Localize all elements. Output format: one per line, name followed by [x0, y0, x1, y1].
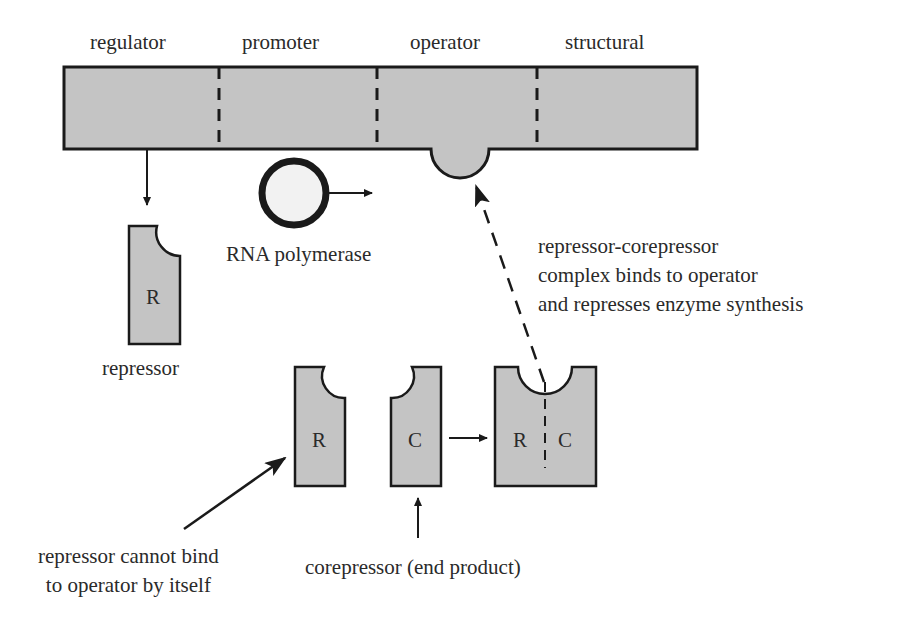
corepressor-shape: [391, 367, 441, 486]
complex-letter-r: R: [505, 428, 535, 453]
segment-label-regulator: regulator: [90, 30, 166, 54]
inactive-repressor-shape: [295, 367, 345, 486]
segment-label-structural: structural: [565, 30, 644, 54]
corepressor-annotation: corepressor (end product): [305, 555, 521, 579]
segment-label-promoter: promoter: [242, 30, 319, 54]
dna-strand: [64, 67, 697, 178]
rna-polymerase-icon: [262, 161, 326, 225]
segment-label-operator: operator: [410, 30, 480, 54]
complex-letter-c: C: [550, 428, 580, 453]
repressor-label: repressor: [102, 356, 179, 380]
inactive-repressor-letter: R: [304, 428, 334, 453]
rna-polymerase-label: RNA polymerase: [226, 242, 371, 266]
corepressor-letter: C: [400, 428, 430, 453]
complex-annotation: repressor-corepressor complex binds to o…: [538, 232, 803, 319]
cannot-bind-annotation: repressor cannot bind to operator by its…: [38, 542, 219, 600]
cannot-bind-arrow: [184, 458, 285, 529]
repressor-letter: R: [138, 285, 168, 310]
complex-to-operator-arrow: [476, 186, 544, 382]
